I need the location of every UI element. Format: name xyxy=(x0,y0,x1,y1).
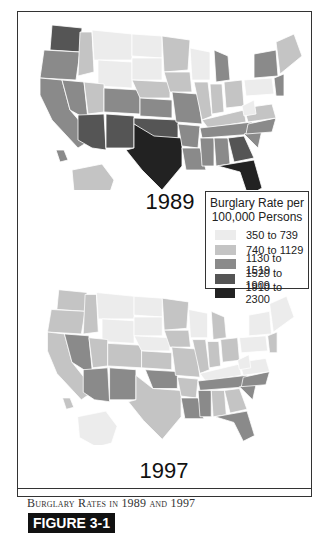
figure-caption: Burglary Rates in 1989 and 1997 xyxy=(27,496,195,511)
state-pa xyxy=(239,336,267,353)
state-ny xyxy=(249,311,272,335)
state-id xyxy=(78,32,94,76)
map-year-1997: 1997 xyxy=(124,458,204,484)
state-ct-nj xyxy=(274,74,284,96)
state-ga xyxy=(224,389,247,413)
figure-label: FIGURE 3-1 xyxy=(28,513,115,533)
state-ks xyxy=(142,351,172,370)
state-nm xyxy=(110,368,136,400)
state-ak xyxy=(72,164,114,190)
state-hi xyxy=(56,150,68,162)
state-ne-states xyxy=(276,34,302,74)
state-sd xyxy=(134,317,162,336)
state-co xyxy=(108,343,142,367)
state-mi xyxy=(214,50,230,82)
map-1989 xyxy=(22,20,312,190)
state-sd xyxy=(132,58,162,80)
state-ms xyxy=(198,390,211,416)
state-ms xyxy=(200,138,214,166)
state-ne-states xyxy=(270,296,294,332)
state-hi xyxy=(63,398,74,409)
state-fl xyxy=(218,160,262,190)
legend-swatch xyxy=(215,245,236,255)
state-ny xyxy=(254,50,278,78)
state-co xyxy=(104,88,140,114)
state-mt xyxy=(92,30,132,60)
state-in xyxy=(207,341,220,367)
legend-title-line2: 100,000 Persons xyxy=(206,210,308,224)
map-1997 xyxy=(22,285,312,445)
map-year-1989: 1989 xyxy=(130,189,210,215)
state-wi xyxy=(189,309,208,337)
state-al xyxy=(211,390,226,416)
state-ut xyxy=(89,338,108,368)
state-az xyxy=(83,368,109,402)
state-al xyxy=(214,138,230,166)
legend-title: Burglary Rate per 100,000 Persons xyxy=(206,196,308,224)
state-mn xyxy=(162,298,188,330)
caption-divider xyxy=(17,488,312,489)
state-ks xyxy=(140,98,172,118)
legend-swatch xyxy=(215,274,235,284)
state-nm xyxy=(106,114,134,148)
state-mi xyxy=(211,311,226,339)
state-wa xyxy=(50,25,82,52)
map-legend: Burglary Rate per 100,000 Persons 350 to… xyxy=(205,191,309,289)
legend-swatch xyxy=(215,230,236,240)
state-id xyxy=(83,294,98,334)
state-wa xyxy=(57,290,87,312)
legend-title-line1: Burglary Rate per xyxy=(206,196,308,210)
state-nd xyxy=(134,296,162,317)
state-ut xyxy=(84,82,104,114)
legend-item: 350 to 739 xyxy=(215,228,308,243)
legend-swatch xyxy=(215,259,236,269)
state-ok xyxy=(145,370,177,389)
state-oh xyxy=(221,338,240,362)
state-mn xyxy=(162,36,190,72)
legend-label: 350 to 739 xyxy=(246,229,298,241)
state-wi xyxy=(190,48,210,80)
state-ct-nj xyxy=(268,332,277,353)
state-mt xyxy=(96,293,134,319)
state-pa xyxy=(244,78,274,96)
state-nd xyxy=(132,34,162,58)
state-ak xyxy=(78,411,118,445)
state-or xyxy=(40,50,80,80)
state-in xyxy=(210,84,224,114)
state-or xyxy=(47,309,85,333)
state-fl xyxy=(215,411,255,441)
state-oh xyxy=(224,80,244,108)
